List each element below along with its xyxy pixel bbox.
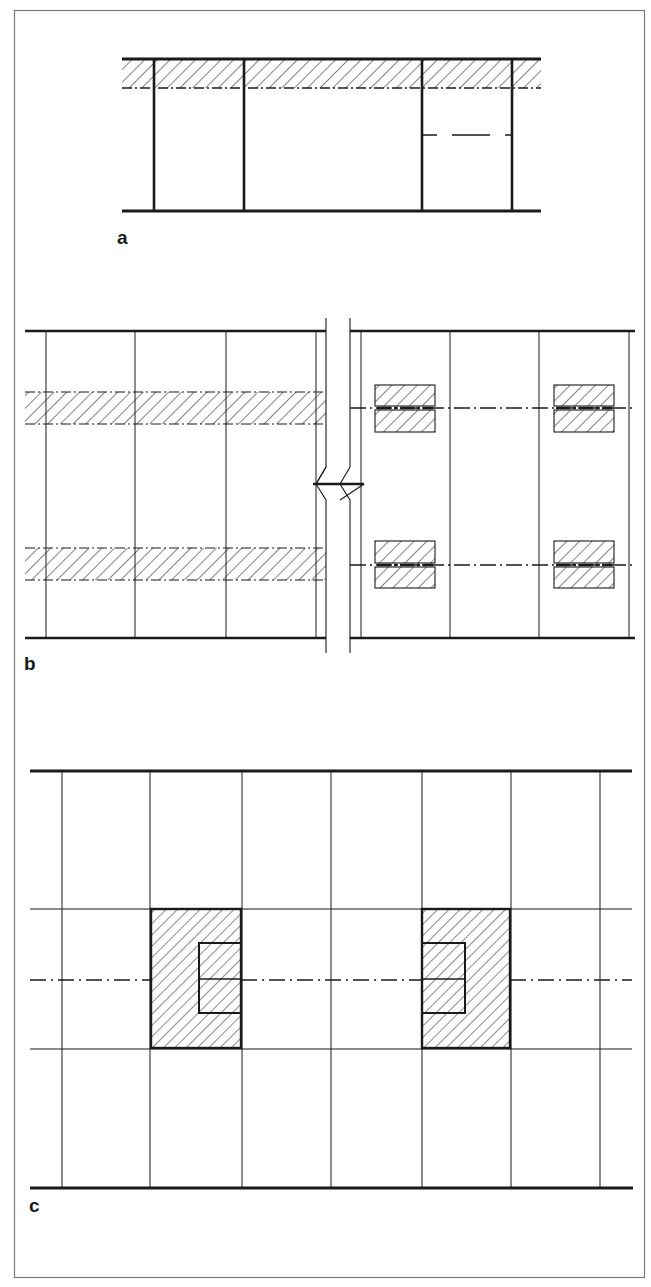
hatched-strip-upper — [25, 392, 326, 424]
page-frame — [15, 11, 645, 1278]
figure-c — [30, 771, 633, 1188]
panel-label-c: c — [29, 1196, 40, 1215]
hatched-strip-lower — [25, 548, 326, 580]
panel-label-a: a — [117, 228, 128, 247]
hatched-beam-band — [122, 59, 541, 88]
figure-b — [25, 318, 636, 653]
break-line-symbol — [313, 318, 364, 653]
figure-a — [122, 59, 541, 211]
panel-label-b: b — [24, 654, 36, 673]
technical-drawing — [0, 0, 651, 1287]
